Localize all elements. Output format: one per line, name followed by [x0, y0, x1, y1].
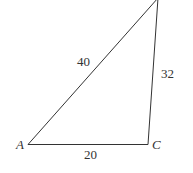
vertex-c-label: C [152, 137, 161, 152]
vertex-a-label: A [15, 137, 24, 152]
side-ab-label: 40 [77, 54, 90, 69]
triangle-diagram: 40 32 20 A C [0, 0, 193, 173]
side-ac-label: 20 [84, 147, 97, 162]
triangle-edges [28, 0, 158, 145]
side-bc-label: 32 [161, 66, 174, 81]
